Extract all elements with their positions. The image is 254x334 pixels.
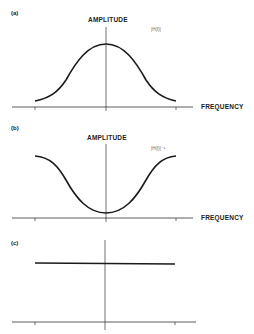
panel-c-flat-line — [35, 263, 175, 264]
panel-b-curve-label: |H(f)|⁻¹ — [151, 146, 165, 151]
panel-a-label: (a) — [11, 10, 18, 16]
panel-a-x-title: FREQUENCY — [201, 103, 244, 110]
panel-b — [12, 144, 193, 222]
panel-a — [12, 27, 193, 111]
panel-c-label: (c) — [11, 240, 18, 246]
panel-a-curve — [35, 44, 176, 101]
panel-a-curve-label: |H(f)| — [151, 27, 161, 32]
panel-b-x-title: FREQUENCY — [201, 214, 244, 221]
panel-b-y-title: AMPLITUDE — [87, 134, 127, 141]
panel-b-label: (b) — [11, 125, 19, 131]
panel-b-curve — [35, 156, 176, 213]
figure-canvas — [0, 0, 254, 334]
panel-c — [12, 240, 196, 330]
panel-a-y-title: AMPLITUDE — [88, 16, 128, 23]
